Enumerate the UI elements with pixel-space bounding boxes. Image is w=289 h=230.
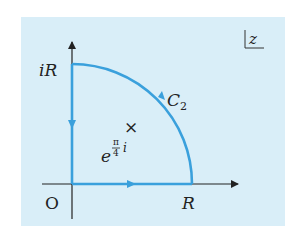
svg-text:i: i: [123, 141, 127, 155]
arrow-imag-segment-icon: [68, 120, 76, 129]
arrow-arc-icon: [158, 91, 165, 100]
imag-endpoint-label: iR: [39, 60, 57, 80]
pole-label: e π 4 i: [101, 137, 127, 166]
svg-text:4: 4: [113, 148, 119, 158]
arrow-real-segment-icon: [127, 180, 136, 188]
svg-text:π: π: [113, 137, 119, 147]
real-endpoint-label: R: [181, 193, 195, 213]
pole-marker: ×: [124, 117, 138, 137]
origin-label: O: [45, 193, 59, 213]
arc-label: C2: [167, 90, 187, 113]
svg-text:e: e: [101, 146, 111, 166]
contour-diagram: z iR O R C2 × e π 4 i: [0, 0, 289, 230]
plane-label: z: [248, 30, 257, 48]
